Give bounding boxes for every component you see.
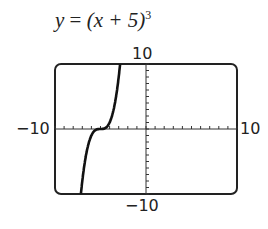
graph-window [0, 0, 268, 229]
